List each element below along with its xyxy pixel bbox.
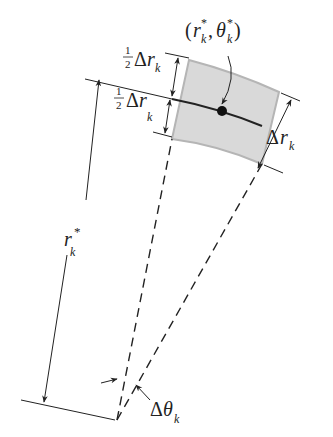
point-label: ( r * k , θ * k ): [185, 16, 241, 46]
radius-arrow-upper: [86, 80, 99, 200]
tick-top: [165, 53, 189, 58]
radius-arrow-lower: [44, 255, 67, 402]
ray-left-dashed: [117, 139, 172, 420]
polar-rectangle-diagram: ( r * k , θ * k ) 1 2 Δ r k 1 2 Δ r k Δ …: [0, 0, 333, 437]
svg-text:θ: θ: [216, 19, 226, 41]
svg-text:Δ: Δ: [266, 126, 279, 148]
delta-theta-arrow-left: [101, 379, 117, 383]
svg-text:2: 2: [125, 58, 131, 70]
svg-text:*: *: [227, 16, 233, 30]
svg-text:1: 1: [125, 44, 131, 56]
svg-text:r: r: [139, 89, 147, 111]
delta-theta-arrow-right: [136, 385, 150, 400]
svg-text:2: 2: [116, 99, 122, 111]
svg-text:k: k: [227, 32, 233, 46]
svg-text:θ: θ: [163, 398, 173, 420]
svg-text:k: k: [70, 245, 76, 259]
half-delta-r-bottom-arrow: [165, 100, 170, 133]
svg-text:(: (: [185, 19, 192, 42]
svg-text:Δ: Δ: [150, 398, 163, 420]
svg-text:r: r: [193, 19, 201, 41]
svg-text:k: k: [147, 110, 153, 124]
svg-text:k: k: [289, 139, 295, 153]
svg-text:r: r: [280, 126, 288, 148]
base-line: [21, 400, 115, 420]
svg-text:1: 1: [116, 85, 122, 97]
svg-text:k: k: [155, 61, 161, 75]
svg-text:*: *: [201, 16, 207, 30]
tick-right-top: [281, 93, 300, 101]
tick-right-bottom: [264, 165, 283, 173]
half-delta-r-top-label: 1 2 Δ r k: [123, 44, 161, 75]
half-delta-r-top-arrow: [172, 58, 178, 96]
delta-r-label: Δ r k: [266, 126, 295, 153]
ray-right-dashed: [117, 164, 262, 420]
tick-bottom: [153, 132, 172, 137]
center-point: [217, 106, 227, 116]
svg-text:r: r: [147, 48, 155, 70]
radius-label: r * k: [64, 224, 81, 259]
svg-text:): ): [234, 19, 241, 42]
svg-text:k: k: [174, 412, 180, 426]
svg-text:,: ,: [208, 19, 213, 41]
svg-text:*: *: [74, 224, 81, 239]
svg-text:Δ: Δ: [126, 89, 139, 111]
delta-theta-label: Δ θ k: [150, 398, 180, 426]
svg-text:k: k: [201, 32, 207, 46]
half-delta-r-bottom-label: 1 2 Δ r k: [114, 85, 153, 124]
svg-text:Δ: Δ: [134, 48, 147, 70]
